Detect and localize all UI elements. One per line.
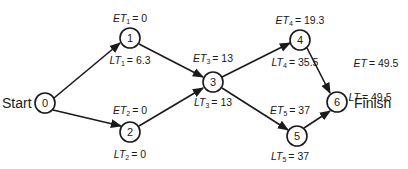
lt-sub: 4: [283, 62, 287, 69]
et-value: = 37: [289, 104, 310, 116]
et-value: = 0: [132, 104, 147, 116]
et-sub: 5: [283, 110, 287, 117]
et-value: = 19.3: [295, 14, 325, 26]
et-value: = 49.5: [369, 57, 399, 69]
node-number: 2: [127, 126, 133, 138]
node-4-lt-label: LT4= 35.5: [272, 56, 319, 69]
node-1: 1: [120, 28, 140, 48]
node-0: 0: [35, 93, 55, 113]
et-value: = 13: [212, 52, 233, 64]
node-number: 3: [210, 76, 216, 88]
lt-value: = 37: [288, 150, 309, 162]
lt-value: = 0: [131, 148, 146, 160]
node-6-et-label: ET= 49.5: [354, 57, 399, 69]
node-3-lt-label: LT3= 13: [194, 96, 232, 109]
edge-4-6: [307, 48, 330, 93]
et-sub: 1: [126, 18, 130, 25]
node-3: 3: [203, 72, 223, 92]
node-1-lt-label: LT1= 6.3: [109, 54, 150, 67]
et-var: ET: [354, 57, 369, 69]
node-5-lt-label: LT5= 37: [271, 150, 309, 163]
pert-network-diagram: 0 1 2 3 4 5 6 Start Finish ET1= 0 LT1= 6…: [0, 0, 408, 169]
et-sub: 3: [206, 58, 210, 65]
node-4-et-label: ET4= 19.3: [276, 14, 325, 27]
node-2-et-label: ET2= 0: [113, 104, 147, 117]
node-number: 4: [297, 34, 303, 46]
node-6: 6: [327, 92, 347, 112]
lt-var: LT: [349, 91, 362, 103]
node-number: 6: [334, 96, 340, 108]
node-3-et-label: ET3= 13: [193, 52, 233, 65]
node-number: 1: [127, 32, 133, 44]
node-number: 0: [42, 97, 48, 109]
node-2-lt-label: LT2= 0: [114, 148, 146, 161]
lt-value: = 35.5: [289, 56, 319, 68]
node-1-et-label: ET1= 0: [113, 12, 147, 25]
lt-sub: 1: [121, 60, 125, 67]
et-sub: 2: [126, 110, 130, 117]
node-number: 5: [294, 130, 300, 142]
lt-value: = 49.5: [362, 91, 392, 103]
lt-value: = 13: [211, 96, 232, 108]
edge-0-2: [53, 110, 121, 126]
node-6-lt-label: LT= 49.5: [349, 91, 392, 103]
lt-sub: 5: [282, 156, 286, 163]
node-4: 4: [290, 30, 310, 50]
node-2: 2: [120, 122, 140, 142]
lt-value: = 6.3: [127, 54, 151, 66]
node-5-et-label: ET5= 37: [270, 104, 310, 117]
edge-0-1: [54, 43, 120, 98]
start-label: Start: [2, 95, 32, 111]
lt-sub: 2: [125, 154, 129, 161]
et-sub: 4: [289, 20, 293, 27]
node-5: 5: [287, 126, 307, 146]
lt-sub: 3: [205, 102, 209, 109]
et-value: = 0: [132, 12, 147, 24]
